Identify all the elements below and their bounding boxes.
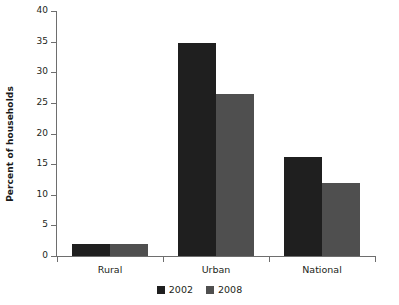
chart-legend: 20022008 — [0, 285, 399, 295]
y-axis-tick — [51, 11, 56, 12]
bar-chart: Percent of households 0510152025303540 R… — [0, 0, 399, 305]
x-axis-line — [56, 256, 376, 257]
y-axis-tick — [51, 225, 56, 226]
legend-swatch-icon — [157, 286, 165, 294]
y-axis-tick-label: 40 — [16, 6, 48, 15]
bar-national-2008 — [322, 183, 360, 257]
legend-label: 2002 — [169, 285, 193, 295]
x-axis-category-label: Rural — [60, 264, 160, 276]
legend-item-2002[interactable]: 2002 — [157, 285, 193, 295]
legend-label: 2008 — [218, 285, 242, 295]
x-axis-tick — [375, 257, 376, 262]
y-axis-tick — [51, 256, 56, 257]
y-axis-tick — [51, 195, 56, 196]
y-axis-tick-label: 25 — [16, 98, 48, 107]
x-axis-tick — [163, 257, 164, 262]
y-axis-tick — [51, 164, 56, 165]
x-axis-tick — [57, 257, 58, 262]
bar-rural-2002 — [72, 244, 110, 256]
y-axis-tick — [51, 42, 56, 43]
y-axis-tick-label: 15 — [16, 159, 48, 168]
y-axis-title: Percent of households — [2, 16, 18, 272]
bar-urban-2008 — [216, 94, 254, 256]
plot-area — [57, 11, 375, 256]
legend-swatch-icon — [206, 286, 214, 294]
y-axis-tick-label: 20 — [16, 129, 48, 138]
bar-rural-2008 — [110, 244, 148, 256]
y-axis-tick-label: 5 — [16, 220, 48, 229]
x-axis-tick — [269, 257, 270, 262]
bar-national-2002 — [284, 157, 322, 256]
x-axis-category-label: National — [272, 264, 372, 276]
y-axis-tick — [51, 134, 56, 135]
y-axis-tick-label: 35 — [16, 37, 48, 46]
y-axis-tick-label: 30 — [16, 67, 48, 76]
y-axis-tick-label: 10 — [16, 190, 48, 199]
y-axis-tick — [51, 103, 56, 104]
bar-urban-2002 — [178, 43, 216, 256]
x-axis-category-label: Urban — [166, 264, 266, 276]
y-axis-tick-label: 0 — [16, 251, 48, 260]
y-axis-tick — [51, 72, 56, 73]
legend-item-2008[interactable]: 2008 — [206, 285, 242, 295]
